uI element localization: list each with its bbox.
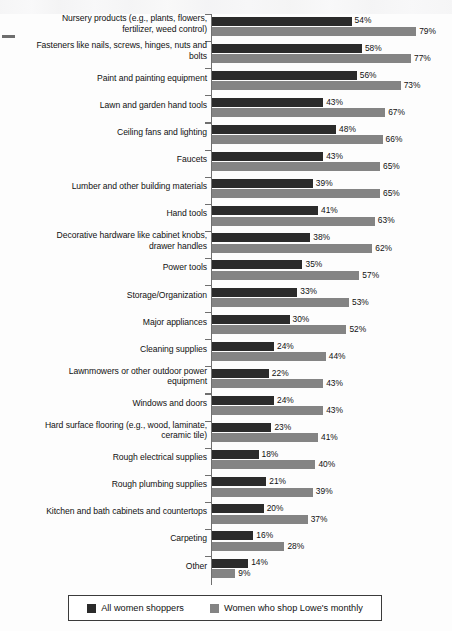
axis-tick <box>205 285 211 286</box>
bar-fill <box>212 98 323 107</box>
bar-fill <box>212 108 385 117</box>
bar-value-label: 57% <box>362 270 379 281</box>
bar-fill <box>212 189 380 198</box>
bar-fill <box>212 352 326 361</box>
axis-tick <box>205 339 211 340</box>
category-label-line: Kitchen and bath cabinets and countertop… <box>7 506 207 517</box>
category-label: Lumber and other building materials <box>7 181 207 192</box>
bar-value-label: 35% <box>305 259 322 270</box>
bar-value-label: 41% <box>321 432 338 443</box>
bar-fill <box>212 288 297 297</box>
axis-tick <box>205 556 211 557</box>
axis-tick <box>205 258 211 259</box>
bar-fill <box>212 504 264 513</box>
bar-value-label: 43% <box>326 405 343 416</box>
bar-fill <box>212 152 323 161</box>
bar-row: Paint and painting equipment56%73% <box>0 68 452 95</box>
category-label: Rough electrical supplies <box>7 452 207 463</box>
bar-fill <box>212 488 313 497</box>
category-label-line: Power tools <box>7 262 207 273</box>
bar-row: Windows and doors24%43% <box>0 393 452 420</box>
category-label: Hard surface flooring (e.g., wood, lamin… <box>7 420 207 441</box>
bar-fill <box>212 315 290 324</box>
bar-row: Ceiling fans and lighting48%66% <box>0 122 452 149</box>
bar-row: Decorative hardware like cabinet knobs,d… <box>0 231 452 258</box>
bar-value-label: 56% <box>360 70 377 81</box>
bar-value-label: 40% <box>318 459 335 470</box>
category-label-line: Ceiling fans and lighting <box>7 127 207 138</box>
category-label-line: Other <box>7 561 207 572</box>
category-label: Storage/Organization <box>7 290 207 301</box>
bar-fill <box>212 369 269 378</box>
category-label: Windows and doors <box>7 398 207 409</box>
category-label-line: Fasteners like nails, screws, hinges, nu… <box>7 40 207 51</box>
scan-noise-band <box>0 0 452 14</box>
category-label: Cleaning supplies <box>7 344 207 355</box>
category-label-line: Cleaning supplies <box>7 344 207 355</box>
category-label-line: Rough plumbing supplies <box>7 479 207 490</box>
bar-fill <box>212 325 346 334</box>
chart-legend: All women shoppers Women who shop Lowe's… <box>68 595 382 621</box>
bar-value-label: 54% <box>355 15 372 26</box>
bar-value-label: 63% <box>378 215 395 226</box>
bar-row: Major appliances30%52% <box>0 312 452 339</box>
bar-value-label: 24% <box>277 341 294 352</box>
bar-row: Power tools35%57% <box>0 258 452 285</box>
axis-tick <box>205 312 211 313</box>
bar-fill <box>212 54 411 63</box>
bar-value-label: 28% <box>287 541 304 552</box>
bar-fill <box>212 81 401 90</box>
axis-tick <box>205 529 211 530</box>
bar-value-label: 22% <box>272 368 289 379</box>
bar-value-label: 44% <box>329 351 346 362</box>
bar-value-label: 73% <box>404 80 421 91</box>
bar-fill <box>212 515 308 524</box>
category-label: Lawn and garden hand tools <box>7 100 207 111</box>
bar-value-label: 52% <box>349 324 366 335</box>
category-label-line: Lawn and garden hand tools <box>7 100 207 111</box>
bar-row: Lawnmowers or other outdoor powerequipme… <box>0 366 452 393</box>
category-label: Nursery products (e.g., plants, flowers,… <box>7 13 207 34</box>
bar-fill <box>212 217 375 226</box>
bar-fill <box>212 559 248 568</box>
bar-value-label: 65% <box>383 161 400 172</box>
axis-tick <box>205 448 211 449</box>
category-label-line: Major appliances <box>7 317 207 328</box>
bar-value-label: 14% <box>251 557 268 568</box>
bar-fill <box>212 450 259 459</box>
category-label: Carpeting <box>7 533 207 544</box>
legend-entry-lowes-monthly: Women who shop Lowe's monthly <box>210 603 363 613</box>
bar-row: Rough electrical supplies18%40% <box>0 448 452 475</box>
category-label-line: Storage/Organization <box>7 290 207 301</box>
category-label-line: Hard surface flooring (e.g., wood, lamin… <box>7 420 207 431</box>
axis-tick <box>205 393 211 394</box>
category-label-line: fertilizer, weed control) <box>7 24 207 35</box>
bar-value-label: 30% <box>293 314 310 325</box>
category-label: Hand tools <box>7 208 207 219</box>
bar-value-label: 53% <box>352 297 369 308</box>
category-label: Other <box>7 561 207 572</box>
bar-value-label: 77% <box>414 53 431 64</box>
bar-value-label: 21% <box>269 476 286 487</box>
bar-row: Kitchen and bath cabinets and countertop… <box>0 502 452 529</box>
category-label: Rough plumbing supplies <box>7 479 207 490</box>
category-label-line: Paint and painting equipment <box>7 73 207 84</box>
bar-fill <box>212 71 357 80</box>
category-label-line: ceramic tile) <box>7 430 207 441</box>
category-label-line: Decorative hardware like cabinet knobs, <box>7 230 207 241</box>
bar-fill <box>212 477 266 486</box>
bar-row: Lawn and garden hand tools43%67% <box>0 95 452 122</box>
legend-swatch-icon-gray <box>210 604 219 613</box>
category-label-line: Windows and doors <box>7 398 207 409</box>
bar-value-label: 20% <box>267 503 284 514</box>
axis-tick <box>205 177 211 178</box>
bar-value-label: 48% <box>339 124 356 135</box>
bar-value-label: 79% <box>419 26 436 37</box>
category-label: Kitchen and bath cabinets and countertop… <box>7 506 207 517</box>
bar-value-label: 43% <box>326 97 343 108</box>
axis-tick <box>205 502 211 503</box>
bar-value-label: 65% <box>383 188 400 199</box>
bar-value-label: 33% <box>300 286 317 297</box>
bar-fill <box>212 569 235 578</box>
bar-value-label: 39% <box>316 486 333 497</box>
